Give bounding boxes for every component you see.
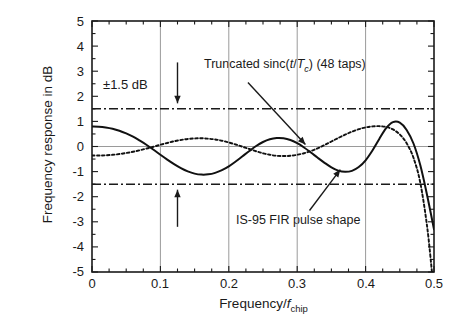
frequency-response-chart: Frequency response in dB Frequency/fchip… — [0, 0, 474, 327]
upper-limit-arrow-head — [174, 96, 180, 104]
lower-limit-arrow-head — [174, 190, 180, 198]
plot-canvas — [0, 0, 474, 327]
series-line-truncated-sinc — [92, 126, 432, 272]
series-line-is95-fir — [92, 122, 434, 230]
is95-leader-arrow-shaft — [310, 170, 341, 211]
